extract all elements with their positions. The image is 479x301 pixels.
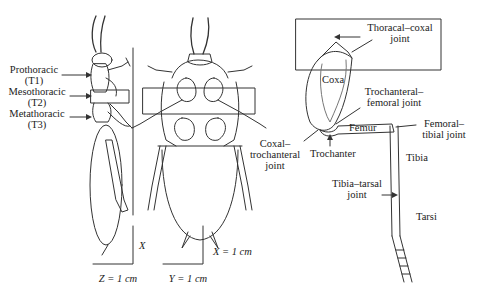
prothoracic-name: Prothoracic [4, 64, 64, 75]
mesothoracic-label: Mesothoracic (T2) [2, 86, 72, 108]
tibia-label: Tibia [406, 152, 428, 163]
trochanteral-femoral-line2: femoral joint [356, 97, 432, 108]
z-scale-bar [93, 226, 133, 264]
femoral-tibial-joint-label: Femoral– tibial joint [414, 118, 474, 140]
femoral-tibial-line2: tibial joint [414, 129, 474, 140]
metathoracic-name: Metathoracic [2, 108, 72, 119]
metathoracic-code: (T3) [2, 119, 72, 130]
thoracal-coxal-line2: joint [360, 33, 440, 44]
x-scale-label: X = 1 cm [213, 246, 252, 257]
mesothoracic-name: Mesothoracic [2, 86, 72, 97]
ventral-view-insect [132, 18, 266, 248]
tibia-tarsal-joint-label: Tibia–tarsal joint [322, 178, 392, 200]
thoracal-coxal-line1: Thoracal–coxal [360, 22, 440, 33]
femur-label: Femur [349, 122, 376, 133]
tibia-tarsal-line1: Tibia–tarsal [322, 178, 392, 189]
metathoracic-label: Metathoracic (T3) [2, 108, 72, 130]
coxal-trochanteral-line2: trochanteral [240, 149, 310, 160]
femoral-tibial-line1: Femoral– [414, 118, 474, 129]
coxal-trochanteral-joint-label: Coxal– trochanteral joint [240, 138, 310, 171]
coxa-label: Coxa [322, 74, 344, 85]
x-axis-label-side: X [139, 240, 145, 251]
side-view-insect [90, 16, 132, 255]
prothoracic-label: Prothoracic (T1) [4, 64, 64, 86]
thoracal-coxal-joint-label: Thoracal–coxal joint [360, 22, 440, 44]
coxal-trochanteral-line1: Coxal– [240, 138, 310, 149]
tarsi-label: Tarsi [416, 211, 437, 222]
mesothoracic-code: (T2) [2, 97, 72, 108]
tibia-tarsal-line2: joint [322, 189, 392, 200]
coxal-trochanteral-line3: joint [240, 160, 310, 171]
trochanter-label: Trochanter [310, 148, 356, 159]
prothoracic-code: (T1) [4, 75, 64, 86]
y-scale-label: Y = 1 cm [158, 273, 218, 284]
z-scale-label: Z = 1 cm [88, 273, 148, 284]
trochanteral-femoral-joint-label: Trochanteral– femoral joint [356, 86, 432, 108]
trochanteral-femoral-line1: Trochanteral– [356, 86, 432, 97]
